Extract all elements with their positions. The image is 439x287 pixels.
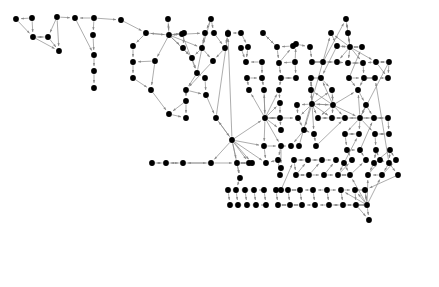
graph-node[interactable] (262, 115, 268, 121)
graph-node[interactable] (263, 202, 269, 208)
graph-node[interactable] (90, 32, 96, 38)
graph-node[interactable] (238, 30, 244, 36)
graph-node[interactable] (180, 45, 186, 51)
graph-node[interactable] (29, 15, 35, 21)
graph-node[interactable] (285, 187, 291, 193)
graph-node[interactable] (208, 160, 214, 166)
graph-node[interactable] (333, 157, 339, 163)
graph-node[interactable] (227, 202, 233, 208)
graph-node[interactable] (386, 59, 392, 65)
graph-node[interactable] (364, 202, 370, 208)
graph-node[interactable] (373, 59, 379, 65)
graph-node[interactable] (56, 48, 62, 54)
graph-node[interactable] (377, 157, 383, 163)
graph-node[interactable] (180, 160, 186, 166)
graph-node[interactable] (261, 143, 267, 149)
graph-node[interactable] (229, 137, 235, 143)
graph-node[interactable] (225, 31, 231, 37)
graph-node[interactable] (278, 127, 284, 133)
graph-node[interactable] (118, 17, 124, 23)
graph-node[interactable] (324, 187, 330, 193)
graph-node[interactable] (183, 98, 189, 104)
graph-node[interactable] (347, 44, 353, 50)
graph-node[interactable] (245, 44, 251, 50)
graph-node[interactable] (307, 44, 313, 50)
graph-node[interactable] (246, 87, 252, 93)
graph-node[interactable] (202, 30, 208, 36)
graph-node[interactable] (30, 34, 36, 40)
graph-node[interactable] (242, 187, 248, 193)
graph-node[interactable] (318, 75, 324, 81)
graph-node[interactable] (149, 160, 155, 166)
graph-node[interactable] (189, 55, 195, 61)
graph-node[interactable] (355, 87, 361, 93)
graph-node[interactable] (235, 202, 241, 208)
graph-node[interactable] (165, 16, 171, 22)
graph-node[interactable] (301, 127, 307, 133)
graph-node[interactable] (130, 75, 136, 81)
graph-node[interactable] (373, 147, 379, 153)
graph-node[interactable] (208, 16, 214, 22)
graph-node[interactable] (343, 16, 349, 22)
graph-node[interactable] (275, 157, 281, 163)
graph-node[interactable] (278, 165, 284, 171)
graph-node[interactable] (352, 187, 358, 193)
graph-node[interactable] (91, 52, 97, 58)
graph-node[interactable] (72, 15, 78, 21)
graph-node[interactable] (166, 111, 172, 117)
graph-node[interactable] (211, 30, 217, 36)
graph-node[interactable] (183, 115, 189, 121)
graph-node[interactable] (244, 202, 250, 208)
graph-node[interactable] (366, 217, 372, 223)
graph-node[interactable] (363, 102, 369, 108)
graph-node[interactable] (395, 172, 401, 178)
graph-node[interactable] (261, 187, 267, 193)
graph-node[interactable] (349, 157, 355, 163)
graph-node[interactable] (359, 44, 365, 50)
graph-node[interactable] (338, 187, 344, 193)
graph-node[interactable] (328, 30, 334, 36)
graph-node[interactable] (371, 160, 377, 166)
graph-node[interactable] (341, 160, 347, 166)
graph-node[interactable] (320, 59, 326, 65)
graph-node[interactable] (344, 147, 350, 153)
graph-node[interactable] (362, 187, 368, 193)
graph-node[interactable] (393, 157, 399, 163)
graph-node[interactable] (335, 172, 341, 178)
graph-node[interactable] (225, 187, 231, 193)
graph-node[interactable] (357, 115, 363, 121)
graph-node[interactable] (361, 75, 367, 81)
graph-node[interactable] (278, 187, 284, 193)
graph-node[interactable] (288, 143, 294, 149)
graph-node[interactable] (278, 75, 284, 81)
graph-node[interactable] (372, 75, 378, 81)
graph-node[interactable] (277, 100, 283, 106)
graph-node[interactable] (329, 87, 335, 93)
graph-node[interactable] (273, 187, 279, 193)
graph-node[interactable] (213, 115, 219, 121)
graph-node[interactable] (357, 147, 363, 153)
graph-node[interactable] (251, 187, 257, 193)
graph-node[interactable] (360, 60, 366, 66)
graph-node[interactable] (274, 44, 280, 50)
graph-node[interactable] (345, 60, 351, 66)
graph-node[interactable] (253, 202, 259, 208)
graph-node[interactable] (261, 87, 267, 93)
graph-node[interactable] (310, 187, 316, 193)
graph-node[interactable] (238, 45, 244, 51)
graph-node[interactable] (329, 115, 335, 121)
graph-node[interactable] (293, 172, 299, 178)
graph-node[interactable] (306, 172, 312, 178)
graph-node[interactable] (130, 43, 136, 49)
graph-node[interactable] (309, 101, 315, 107)
graph-node[interactable] (202, 75, 208, 81)
graph-node[interactable] (308, 75, 314, 81)
graph-node[interactable] (183, 87, 189, 93)
graph-node[interactable] (259, 75, 265, 81)
graph-node[interactable] (313, 143, 319, 149)
graph-node[interactable] (179, 31, 185, 37)
graph-node[interactable] (319, 157, 325, 163)
graph-node[interactable] (353, 202, 359, 208)
graph-node[interactable] (308, 87, 314, 93)
graph-node[interactable] (203, 92, 209, 98)
